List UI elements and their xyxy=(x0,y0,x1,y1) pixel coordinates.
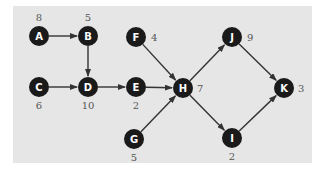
node-weight: 4 xyxy=(151,32,157,43)
node-i: I2 xyxy=(222,128,242,162)
node-weight: 8 xyxy=(36,12,42,23)
node-k: K3 xyxy=(274,78,304,98)
node-weight: 2 xyxy=(229,151,235,162)
node-weight: 10 xyxy=(82,100,95,111)
node-f: F4 xyxy=(126,27,157,47)
node-weight: 6 xyxy=(36,100,42,111)
node-label: H xyxy=(179,83,187,94)
node-label: K xyxy=(280,83,289,94)
edge-j-k xyxy=(239,44,276,80)
node-weight: 2 xyxy=(133,100,139,111)
node-label: G xyxy=(130,134,138,145)
node-label: E xyxy=(133,82,140,93)
node-label: B xyxy=(84,31,92,42)
node-weight: 5 xyxy=(85,12,91,23)
node-d: D10 xyxy=(78,77,98,111)
node-a: A8 xyxy=(29,12,49,46)
node-weight: 9 xyxy=(247,32,253,43)
edge-h-j xyxy=(190,45,224,81)
node-label: A xyxy=(35,31,43,42)
node-e: E2 xyxy=(126,77,146,111)
node-g: G5 xyxy=(124,129,144,163)
edge-e-h xyxy=(146,87,172,88)
node-weight: 7 xyxy=(197,83,203,94)
node-label: D xyxy=(84,82,92,93)
node-c: C6 xyxy=(29,77,49,111)
edge-i-k xyxy=(239,96,276,131)
node-label: J xyxy=(229,32,234,43)
edge-g-h xyxy=(141,96,175,132)
edge-h-i xyxy=(190,95,224,130)
node-label: I xyxy=(230,133,234,144)
node-j: J9 xyxy=(222,27,253,47)
node-weight: 5 xyxy=(131,152,137,163)
node-label: C xyxy=(35,82,42,93)
edge-f-h xyxy=(143,44,176,80)
node-label: F xyxy=(133,32,140,43)
node-weight: 3 xyxy=(298,83,304,94)
directed-graph: A8B5C6D10E2F4G5H7I2J9K3 xyxy=(0,0,327,175)
node-b: B5 xyxy=(78,12,98,46)
node-h: H7 xyxy=(173,78,203,98)
